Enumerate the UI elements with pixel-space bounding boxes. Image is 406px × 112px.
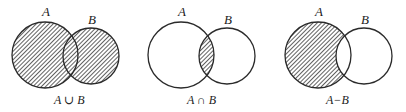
set-b-label: B bbox=[88, 12, 96, 27]
venn-panel-union: A B A ∪ B bbox=[12, 4, 119, 107]
set-b-label: B bbox=[361, 12, 369, 27]
set-b-label: B bbox=[224, 12, 232, 27]
set-a-label: A bbox=[314, 4, 323, 19]
venn-panel-intersection: A B A ∩ B bbox=[148, 4, 255, 107]
set-a-label: A bbox=[177, 4, 186, 19]
set-a-label: A bbox=[41, 4, 50, 19]
caption-intersection: A ∩ B bbox=[186, 93, 217, 107]
venn-figure: A B A ∪ B A B A ∩ B A B A−B bbox=[0, 0, 406, 112]
caption-union: A ∪ B bbox=[53, 93, 85, 107]
venn-panel-difference: A B A−B bbox=[285, 4, 392, 107]
caption-difference: A−B bbox=[325, 93, 349, 107]
